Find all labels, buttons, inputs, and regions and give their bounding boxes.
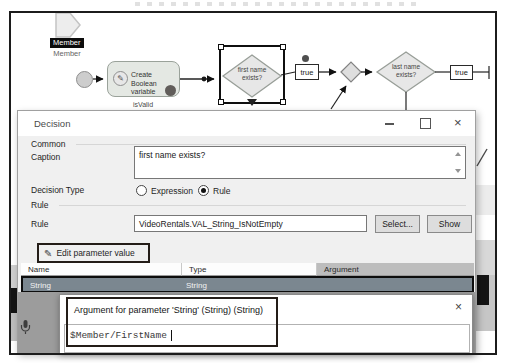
decision1-label: first name exists?: [228, 66, 276, 81]
popup-annotation: [66, 297, 278, 347]
minimize-button[interactable]: [385, 123, 394, 125]
selection-handle[interactable]: [218, 44, 224, 50]
group-divider: [76, 144, 466, 145]
create-variable-icon: ✎: [113, 71, 128, 86]
edit-parameter-annotation: ✎ Edit parameter value: [37, 243, 150, 263]
selection-handle[interactable]: [280, 44, 286, 50]
microphone-icon: [20, 319, 31, 337]
dialog-titlebar[interactable]: [18, 111, 475, 136]
table-row-string[interactable]: String String: [21, 276, 474, 293]
maximize-button[interactable]: [420, 118, 431, 129]
popup-close-icon: ×: [455, 300, 462, 314]
scroll-down-icon[interactable]: [455, 169, 461, 173]
radio-rule[interactable]: [198, 185, 209, 196]
start-event-node[interactable]: [76, 71, 93, 88]
radio-expression[interactable]: [136, 185, 147, 196]
show-button[interactable]: Show: [427, 215, 472, 233]
pencil-icon: ✎: [44, 248, 52, 259]
radio-rule-label[interactable]: Rule: [213, 186, 230, 196]
select-button[interactable]: Select...: [375, 215, 420, 233]
caption-input[interactable]: first name exists?: [134, 146, 466, 179]
dialog-title: Decision: [34, 118, 70, 129]
row-name-cell: String: [30, 281, 51, 290]
rule-label: Rule: [31, 219, 48, 229]
close-icon: ×: [454, 115, 462, 130]
merge-gateway-node[interactable]: [341, 62, 361, 82]
decision1-line2: exists?: [228, 74, 276, 82]
common-group-label: Common: [31, 139, 65, 149]
rule-group-label: Rule: [31, 200, 48, 210]
create-boolean-variable-node[interactable]: ✎ Create Boolean variable: [107, 61, 180, 97]
decision2-line1: last name: [382, 63, 430, 71]
radio-selected-dot: [201, 188, 206, 193]
caption-value: first name exists?: [139, 150, 205, 160]
popup-close-button[interactable]: ×: [455, 301, 462, 314]
selection-handle[interactable]: [280, 99, 286, 105]
maximize-icon: [420, 118, 431, 129]
minimize-icon: [385, 123, 394, 125]
screenshot-root: Member Member ✎ Create Boolean variable …: [0, 0, 506, 363]
decision-dialog: Decision × Common Caption first name exi…: [17, 110, 476, 353]
rule-value: VideoRentals.VAL_String_IsNotEmpty: [139, 219, 283, 229]
decision2-line2: exists?: [382, 71, 430, 79]
edge-label-true-1[interactable]: true: [295, 64, 319, 80]
table-header-argument: Argument: [316, 263, 474, 276]
scroll-up-icon[interactable]: [455, 152, 461, 156]
decision2-label: last name exists?: [382, 63, 430, 78]
member-tag[interactable]: Member: [50, 38, 84, 48]
radio-expression-label[interactable]: Expression: [151, 186, 193, 196]
table-header-name: Name: [21, 263, 181, 276]
table-header-type: Type: [181, 263, 316, 276]
close-button[interactable]: ×: [454, 116, 462, 129]
decision-type-label: Decision Type: [31, 185, 84, 195]
connector-line-behind-dialog: [477, 149, 487, 166]
connector-line: [331, 86, 346, 109]
decision1-line1: first name: [228, 66, 276, 74]
selection-anchor-icon[interactable]: [247, 99, 257, 106]
task-sublabel: isValid: [119, 101, 167, 110]
node-status-dot-icon: [165, 85, 176, 96]
caption-label: Caption: [31, 152, 60, 162]
connector-dot: [202, 77, 207, 82]
rule-input[interactable]: VideoRentals.VAL_String_IsNotEmpty: [134, 215, 367, 232]
member-tag-label: Member: [53, 38, 81, 47]
row-type-cell: String: [186, 281, 207, 290]
edit-parameter-button[interactable]: Edit parameter value: [56, 248, 134, 258]
member-sublabel: Member: [50, 49, 84, 58]
group-divider: [59, 205, 466, 206]
selection-handle[interactable]: [218, 99, 224, 105]
edge-marker-icon: [302, 55, 309, 62]
member-data-object-icon[interactable]: [55, 12, 81, 38]
edge-label-true-2[interactable]: true: [450, 65, 473, 80]
